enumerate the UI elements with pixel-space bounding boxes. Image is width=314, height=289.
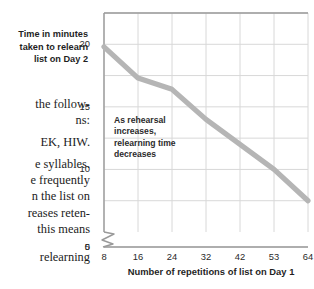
body-text-line: ns:: [0, 112, 90, 128]
y-axis-title-line: list on Day 2: [2, 53, 88, 66]
chart-annotation-line: decreases: [114, 149, 192, 160]
body-text-line: relearning: [40, 250, 90, 264]
chart-annotation-line: relearning time: [114, 138, 192, 149]
y-axis-break-zigzag: [102, 232, 114, 247]
x-tick-label: 16: [129, 251, 147, 262]
axis-break-zigzag: [102, 232, 114, 247]
x-axis-title: Number of repetitions of list on Day 1: [108, 266, 314, 277]
textbook-page-fragment: the follow- ns: EK, HIW. e syllables. e …: [0, 0, 314, 289]
x-tick-label: 8: [95, 251, 113, 262]
x-tick-label: 42: [231, 251, 249, 262]
x-tick-label: 53: [265, 251, 283, 262]
body-text-line: reases reten-: [0, 205, 90, 221]
x-tick-label: 24: [163, 251, 181, 262]
x-tick-label: 64: [299, 251, 314, 262]
body-text-line: this means: [0, 221, 90, 237]
y-tick-label: 5: [74, 241, 90, 252]
y-tick-label: 20: [74, 38, 90, 49]
body-text-line: EK, HIW.: [0, 134, 90, 150]
body-text-line: e frequently: [0, 172, 90, 188]
chart-annotation-line: increases,: [114, 126, 192, 137]
chart-annotation-line: As rehearsal: [114, 115, 192, 126]
body-text-line: n the list on: [0, 188, 90, 204]
clipped-header-strip: [0, 0, 314, 7]
chart-annotation: As rehearsal increases, relearning time …: [114, 115, 192, 161]
y-tick-label: 10: [74, 163, 90, 174]
x-tick-label: 32: [197, 251, 215, 262]
y-tick-label: 15: [74, 101, 90, 112]
